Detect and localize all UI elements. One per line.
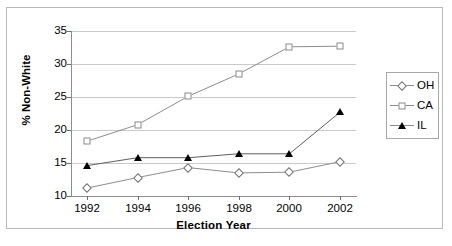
data-point-il bbox=[336, 108, 344, 115]
data-point-ca bbox=[235, 70, 242, 77]
legend-label: IL bbox=[417, 119, 427, 131]
chart-frame: % Non-White 101520253035 199219941996199… bbox=[6, 7, 443, 229]
data-point-il bbox=[134, 154, 142, 161]
series-line-il bbox=[87, 112, 340, 165]
data-point-il bbox=[285, 150, 293, 157]
x-axis-title: Election Year bbox=[71, 219, 356, 231]
series-line-ca bbox=[87, 46, 340, 141]
data-point-ca bbox=[185, 93, 192, 100]
data-point-ca bbox=[84, 138, 91, 145]
series-lines bbox=[7, 8, 444, 230]
data-point-ca bbox=[286, 43, 293, 50]
figure-caption bbox=[8, 239, 444, 246]
chart-legend: OHCAIL bbox=[386, 72, 439, 139]
legend-label: CA bbox=[417, 99, 433, 111]
legend-item-il[interactable]: IL bbox=[387, 116, 440, 136]
series-line-oh bbox=[87, 162, 340, 188]
data-point-ca bbox=[337, 43, 344, 50]
data-point-il bbox=[83, 162, 91, 169]
legend-marker-oh bbox=[397, 81, 407, 91]
legend-marker-il bbox=[398, 122, 406, 129]
data-point-il bbox=[235, 150, 243, 157]
legend-marker-ca bbox=[399, 103, 406, 110]
data-point-il bbox=[184, 154, 192, 161]
legend-label: OH bbox=[417, 79, 434, 91]
data-point-ca bbox=[134, 121, 141, 128]
legend-item-ca[interactable]: CA bbox=[387, 96, 440, 116]
legend-item-oh[interactable]: OH bbox=[387, 76, 440, 96]
chart-figure: % Non-White 101520253035 199219941996199… bbox=[0, 0, 452, 246]
